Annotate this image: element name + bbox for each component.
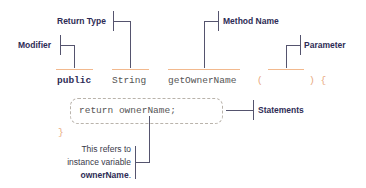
method-anatomy-diagram: Return Type Method Name Modifier Paramet…: [0, 0, 366, 188]
return-type-code: String: [112, 75, 146, 86]
close-paren-brace: ) {: [309, 75, 326, 86]
return-statement-code: return ownerName;: [79, 105, 176, 116]
statements-connector-h: [226, 110, 254, 111]
note-connector-h: [135, 162, 150, 163]
instance-variable-note: This refers to instance variable ownerNa…: [67, 143, 131, 182]
method-name-code: getOwnerName: [168, 75, 236, 86]
close-brace: }: [58, 127, 64, 138]
open-paren: (: [257, 75, 263, 86]
modifier-underline: [56, 69, 93, 70]
method-name-connector-v: [204, 21, 205, 68]
method-name-underline: [168, 69, 240, 70]
return-type-connector-v: [130, 21, 131, 68]
method-name-connector-h: [204, 21, 219, 22]
note-bracket-bar: [135, 146, 136, 179]
note-line-3: ownerName.: [67, 169, 131, 182]
modifier-code: public: [57, 75, 91, 86]
parameter-underline: [268, 69, 304, 70]
return-type-label: Return Type: [57, 16, 106, 26]
note-line-1: This refers to: [67, 143, 131, 156]
note-variable-name: ownerName: [80, 170, 128, 180]
modifier-connector-h: [60, 45, 75, 46]
modifier-label: Modifier: [18, 40, 51, 50]
return-type-connector-h: [113, 21, 131, 22]
parameter-connector-v: [286, 45, 287, 68]
return-type-underline: [112, 69, 149, 70]
note-line-2: instance variable: [67, 156, 131, 169]
note-connector-v: [149, 116, 150, 163]
statements-bracket-bar: [253, 100, 254, 120]
method-name-label: Method Name: [223, 16, 279, 26]
parameter-label: Parameter: [304, 40, 346, 50]
modifier-connector-v: [74, 45, 75, 68]
note-period: .: [129, 170, 131, 180]
statements-label: Statements: [258, 105, 304, 115]
parameter-connector-h: [286, 45, 301, 46]
